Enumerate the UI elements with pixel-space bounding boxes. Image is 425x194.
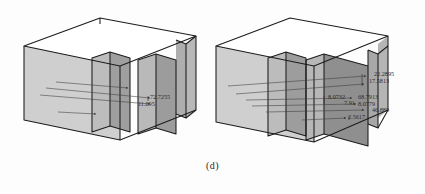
isometric-box-right: 22.2895 17.5813 8.0732 68.7913 7.91 8.07… (206, 0, 418, 168)
dim-label: 17.5813 (369, 78, 389, 85)
dim-label: 2.5617 (348, 114, 365, 121)
figure-caption: (d) (0, 160, 425, 171)
dim-label: 7.91 (344, 100, 355, 107)
figure-panel-d: 72.7255 11.095 (0, 0, 425, 194)
dim-label: 46.889 (372, 107, 389, 114)
isometric-box-left: 72.7255 11.095 (0, 0, 212, 168)
dim-label: 8.0732 (328, 94, 345, 101)
dim-label: 11.095 (138, 101, 155, 108)
